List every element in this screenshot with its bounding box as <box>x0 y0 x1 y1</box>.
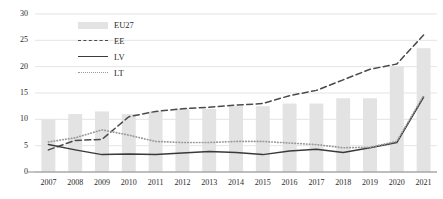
chart-legend: EU27 EE LV LT <box>78 17 174 81</box>
bar-2015 <box>256 106 270 172</box>
bar-2018 <box>336 98 350 172</box>
legend-item-eu27: EU27 <box>78 17 174 33</box>
legend-label-eu27: EU27 <box>114 20 134 30</box>
y-tick-30: 30 <box>8 9 28 18</box>
bar-2008 <box>68 114 82 172</box>
y-tick-20: 20 <box>8 62 28 71</box>
bar-2013 <box>202 109 216 172</box>
bar-2021 <box>417 48 431 172</box>
legend-item-lt: LT <box>78 65 174 81</box>
legend-swatch-eu27-icon <box>78 20 108 30</box>
legend-label-lv: LV <box>114 52 125 62</box>
legend-swatch-ee-icon <box>78 36 108 46</box>
bar-2019 <box>363 98 377 172</box>
y-tick-25: 25 <box>8 35 28 44</box>
bar-2014 <box>229 106 243 172</box>
y-tick-10: 10 <box>8 114 28 123</box>
legend-swatch-lt-icon <box>78 68 108 78</box>
x-tick-2021: 2021 <box>407 178 441 187</box>
legend-item-lv: LV <box>78 49 174 65</box>
bar-2012 <box>175 109 189 172</box>
legend-label-lt: LT <box>114 68 124 78</box>
bar-2009 <box>95 111 109 172</box>
legend-label-ee: EE <box>114 36 124 46</box>
bar-2010 <box>122 114 136 172</box>
y-tick-0: 0 <box>8 167 28 176</box>
y-tick-5: 5 <box>8 141 28 150</box>
bar-2016 <box>283 104 297 172</box>
bar-2017 <box>309 104 323 172</box>
y-tick-15: 15 <box>8 88 28 97</box>
bar-2020 <box>390 67 404 172</box>
chart-container: 302520151050 200720082009201020112012201… <box>0 0 443 199</box>
chart-plot-area <box>0 0 443 199</box>
legend-item-ee: EE <box>78 33 174 49</box>
legend-swatch-lv-icon <box>78 52 108 62</box>
